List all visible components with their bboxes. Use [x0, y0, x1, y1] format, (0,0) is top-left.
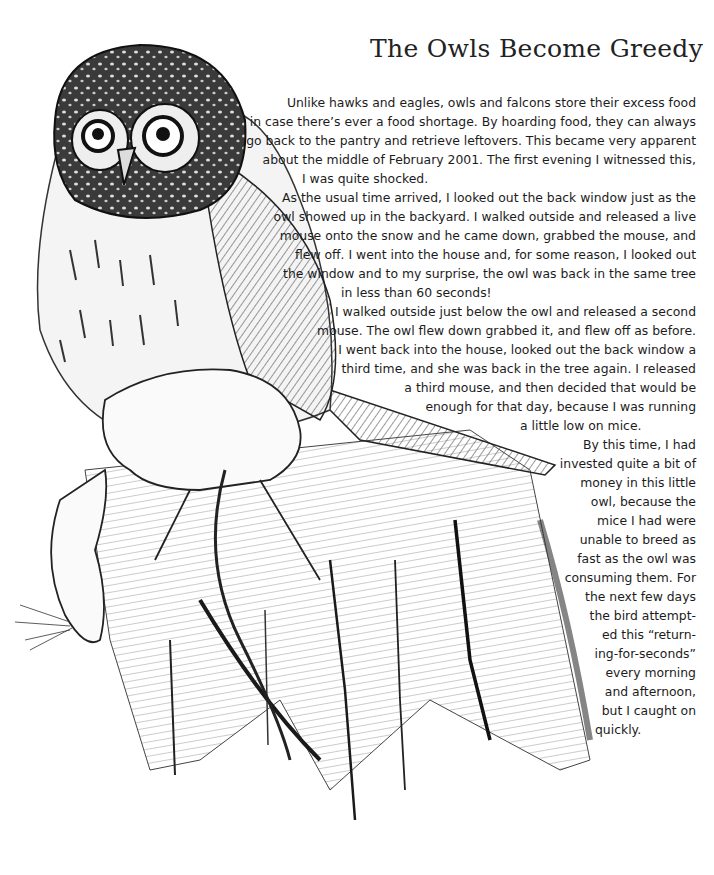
page-title: The Owls Become Greedy: [370, 34, 690, 63]
body-line: go back to the pantry and retrieve lefto…: [246, 131, 696, 150]
body-line: about the middle of February 2001. The f…: [263, 150, 696, 169]
body-line: and afternoon,: [605, 682, 696, 701]
body-line: mouse onto the snow and he came down, gr…: [280, 226, 696, 245]
tree-stump: [85, 430, 590, 820]
body-line: mouse. The owl flew down grabbed it, and…: [317, 321, 696, 340]
body-line: in case there’s ever a food shortage. By…: [250, 112, 696, 131]
body-line: fast as the owl was: [577, 549, 696, 568]
body-line: consuming them. For: [565, 568, 696, 587]
body-line: I walked outside just below the owl and …: [335, 302, 696, 321]
body-line: As the usual time arrived, I looked out …: [282, 188, 696, 207]
body-line: a third mouse, and then decided that wou…: [404, 378, 696, 397]
body-line: unable to breed as: [580, 530, 696, 549]
body-line: the bird attempt-: [590, 606, 696, 625]
body-line: I was quite shocked.: [302, 169, 428, 188]
body-line: every morning: [606, 663, 697, 682]
body-line: third time, and she was back in the tree…: [341, 359, 696, 378]
body-line: invested quite a bit of: [560, 454, 696, 473]
body-line: the window and to my surprise, the owl w…: [283, 264, 696, 283]
body-line: Unlike hawks and eagles, owls and falcon…: [287, 93, 696, 112]
body-line: the next few days: [585, 587, 696, 606]
body-line: owl showed up in the backyard. I walked …: [274, 207, 696, 226]
body-line: but I caught on: [602, 701, 696, 720]
body-line: ing-for-seconds”: [595, 644, 696, 663]
body-line: flew off. I went into the house and, for…: [295, 245, 696, 264]
body-line: quickly.: [595, 720, 641, 739]
body-line: I went back into the house, looked out t…: [338, 340, 696, 359]
body-line: mice I had were: [597, 511, 696, 530]
body-line: money in this little: [580, 473, 696, 492]
body-line: owl, because the: [591, 492, 696, 511]
body-line: enough for that day, because I was runni…: [425, 397, 696, 416]
body-line: ed this “return-: [602, 625, 696, 644]
body-line: in less than 60 seconds!: [341, 283, 492, 302]
body-line: a little low on mice.: [520, 416, 642, 435]
body-line: By this time, I had: [583, 435, 696, 454]
book-page: The Owls Become Greedy Unlike hawks and …: [0, 0, 714, 875]
